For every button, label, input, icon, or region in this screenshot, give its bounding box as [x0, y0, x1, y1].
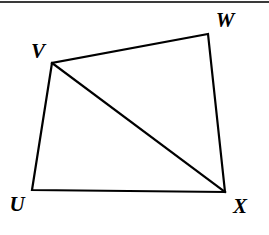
- geometry-figure: U V W X: [0, 0, 269, 235]
- quadrilateral-drawing: [0, 0, 269, 235]
- quadrilateral-outline-uvwx: [32, 34, 225, 192]
- vertex-label-x: X: [233, 196, 247, 217]
- vertex-label-v: V: [31, 41, 45, 62]
- vertex-label-u: U: [9, 194, 24, 215]
- vertex-label-w: W: [216, 10, 235, 31]
